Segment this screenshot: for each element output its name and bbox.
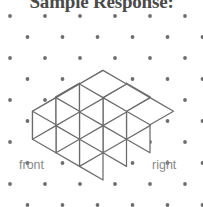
isometric-cube-stack [0, 0, 203, 207]
right-label: right [152, 158, 176, 172]
front-label: front [19, 158, 44, 172]
sample-response-figure: Sample Response: front right [0, 0, 203, 207]
